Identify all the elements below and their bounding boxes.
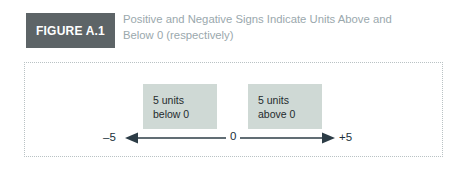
callout-below-line-2: below 0 (153, 107, 217, 121)
number-line: –5 0 +5 (95, 126, 375, 152)
arrow-right-icon (322, 133, 335, 144)
callout-box-below-zero: 5 units below 0 (143, 84, 217, 129)
callout-box-above-zero: 5 units above 0 (248, 84, 322, 129)
figure-header: FIGURE A.1 Positive and Negative Signs I… (26, 13, 426, 53)
figure-caption: Positive and Negative Signs Indicate Uni… (123, 12, 423, 43)
figure-caption-line-2: Below 0 (respectively) (123, 28, 423, 44)
figure-number-badge: FIGURE A.1 (26, 13, 115, 48)
number-line-label-positive-five: +5 (339, 131, 352, 143)
callout-below-line-1: 5 units (153, 93, 217, 107)
figure-container: FIGURE A.1 Positive and Negative Signs I… (0, 0, 466, 172)
callout-above-line-2: above 0 (258, 107, 322, 121)
figure-caption-line-1: Positive and Negative Signs Indicate Uni… (123, 12, 423, 28)
figure-body-panel: 5 units below 0 5 units above 0 –5 0 +5 (24, 62, 443, 157)
number-line-label-negative-five: –5 (103, 131, 116, 143)
callout-above-line-1: 5 units (258, 93, 322, 107)
arrow-left-icon (125, 133, 138, 144)
number-line-label-zero: 0 (226, 130, 240, 142)
